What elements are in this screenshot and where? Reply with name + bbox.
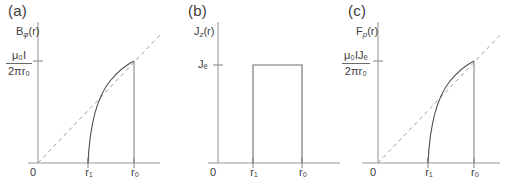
y-axis-name-c: Fp(r) (356, 26, 378, 39)
dashed-asymptote-line (38, 35, 160, 163)
x-tick-label-r1-a: r₁ (82, 167, 96, 178)
pinning-force-curve (428, 61, 474, 163)
y-axis-name-b: Jz(r) (194, 26, 214, 39)
y-tick-label-a: μ₀I 2πr₀ (6, 49, 32, 77)
y-axis-argument: (r) (29, 25, 40, 37)
x-tick-label-r0-a: r₀ (128, 167, 142, 178)
x-tick-label-r1-c: r₁ (422, 167, 436, 178)
origin-label-a: 0 (30, 167, 36, 178)
x-tick-label-r0-b: r₀ (296, 167, 310, 178)
y-axis-name-a: Bφ(r) (16, 26, 40, 39)
panel-b: (b) Jz(r) Jₑ 0 r₁ r₀ (180, 0, 348, 186)
current-density-rectangle (253, 65, 302, 163)
origin-label-b: 0 (210, 167, 216, 178)
y-tick-denominator: 2πr₀ (342, 64, 370, 78)
y-axis-symbol: F (356, 25, 363, 37)
y-tick-numerator: μ₀I (6, 49, 32, 64)
origin-label-c: 0 (370, 167, 376, 178)
y-axis-argument: (r) (367, 25, 378, 37)
field-profile-curve (88, 61, 134, 163)
y-tick-denominator: 2πr₀ (6, 64, 32, 78)
x-tick-label-r1-b: r₁ (247, 167, 261, 178)
panel-a: (a) Bφ(r) μ₀I 2πr₀ 0 r₁ (0, 0, 168, 186)
y-axis-argument: (r) (203, 25, 214, 37)
panel-c: (c) Fp(r) μ₀IJₑ 2πr₀ 0 r₁ r₀ (340, 0, 506, 186)
y-tick-label-b: Jₑ (198, 59, 208, 70)
y-tick-label-c: μ₀IJₑ 2πr₀ (342, 49, 370, 77)
x-tick-label-r0-c: r₀ (468, 167, 482, 178)
figure-root: (a) Bφ(r) μ₀I 2πr₀ 0 r₁ (0, 0, 506, 186)
y-tick-numerator: μ₀IJₑ (342, 49, 370, 64)
